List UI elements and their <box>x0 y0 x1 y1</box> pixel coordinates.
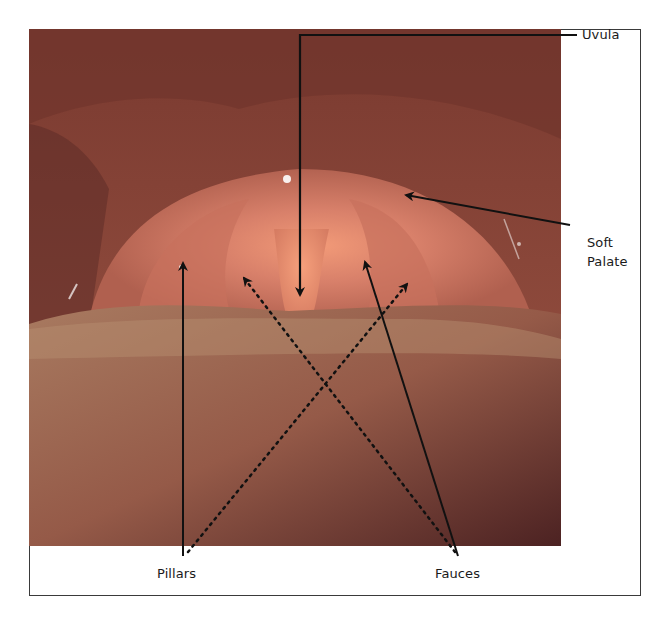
fauces-arrow-dotted <box>244 278 455 552</box>
soft-palate-arrow <box>406 195 570 225</box>
label-fauces: Fauces <box>435 565 480 582</box>
label-soft-palate-line1: Soft <box>587 234 613 251</box>
annotation-arrows <box>0 0 670 628</box>
label-soft-palate-line2: Palate <box>587 253 628 270</box>
label-uvula: Uvula <box>582 26 620 43</box>
fauces-arrow-solid <box>365 262 458 556</box>
label-pillars: Pillars <box>157 565 196 582</box>
pillars-arrow-dotted <box>188 284 407 552</box>
uvula-arrow <box>300 35 577 295</box>
